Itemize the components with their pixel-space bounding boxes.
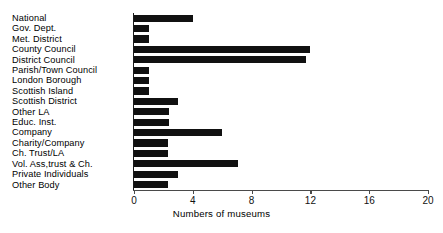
category-label: Charity/Company <box>0 138 128 148</box>
category-label: London Borough <box>0 75 128 85</box>
bar-row <box>134 159 428 169</box>
bar <box>134 77 149 84</box>
bar <box>134 15 193 22</box>
bar <box>134 150 168 157</box>
category-label: Parish/Town Council <box>0 65 128 75</box>
bar-row <box>134 180 428 190</box>
bar <box>134 98 178 105</box>
bar-row <box>134 96 428 106</box>
x-axis-tick <box>252 190 253 194</box>
category-label: National <box>0 13 128 23</box>
bar-row <box>134 13 428 23</box>
x-axis-line <box>133 190 429 191</box>
bar <box>134 160 238 167</box>
bar-row <box>134 117 428 127</box>
bar-row <box>134 55 428 65</box>
category-label: Met. District <box>0 34 128 44</box>
bar-row <box>134 34 428 44</box>
bar <box>134 67 149 74</box>
bar <box>134 56 306 63</box>
bar-row <box>134 138 428 148</box>
museums-bar-chart: NationalGov. Dept.Met. DistrictCounty Co… <box>0 0 443 233</box>
category-label: Vol. Ass,trust & Ch. <box>0 159 128 169</box>
bar <box>134 181 168 188</box>
bar-row <box>134 169 428 179</box>
bar-row <box>134 44 428 54</box>
category-label: Scottish District <box>0 96 128 106</box>
bar <box>134 139 168 146</box>
category-label: Other Body <box>0 180 128 190</box>
category-label: Scottish Island <box>0 86 128 96</box>
bar-row <box>134 107 428 117</box>
x-axis-tick-label: 20 <box>422 195 433 206</box>
x-axis-tick <box>310 190 311 194</box>
bar <box>134 119 169 126</box>
bar-row <box>134 65 428 75</box>
x-axis-tick <box>369 190 370 194</box>
bar-row <box>134 127 428 137</box>
bar-row <box>134 23 428 33</box>
category-axis-labels: NationalGov. Dept.Met. DistrictCounty Co… <box>0 13 128 190</box>
bar-row <box>134 75 428 85</box>
bar <box>134 35 149 42</box>
bar-row <box>134 148 428 158</box>
bar <box>134 46 310 53</box>
plot-area: 048121620 <box>134 13 428 190</box>
x-axis-tick <box>193 190 194 194</box>
bar <box>134 108 169 115</box>
category-label: Private Individuals <box>0 169 128 179</box>
x-axis-tick-label: 16 <box>364 195 375 206</box>
category-label: Other LA <box>0 107 128 117</box>
bar <box>134 171 178 178</box>
x-axis-title: Numbers of museums <box>0 208 443 219</box>
bar <box>134 87 149 94</box>
category-label: Gov. Dept. <box>0 23 128 33</box>
x-axis-tick-label: 4 <box>190 195 196 206</box>
bar-series <box>134 13 428 190</box>
bar-row <box>134 86 428 96</box>
x-axis-tick <box>428 190 429 194</box>
category-label: District Council <box>0 55 128 65</box>
x-axis-tick-label: 12 <box>305 195 316 206</box>
bar <box>134 129 222 136</box>
x-axis-tick-label: 8 <box>249 195 255 206</box>
category-label: County Council <box>0 44 128 54</box>
x-axis-tick <box>134 190 135 194</box>
category-label: Educ. Inst. <box>0 117 128 127</box>
category-label: Company <box>0 127 128 137</box>
category-label: Ch. Trust/LA <box>0 148 128 158</box>
bar <box>134 25 149 32</box>
x-axis-tick-label: 0 <box>131 195 137 206</box>
